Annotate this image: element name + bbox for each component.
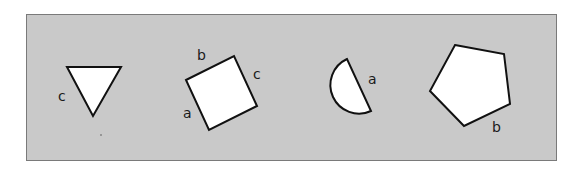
square-label-a: a: [183, 105, 192, 121]
square-label-b: b: [197, 47, 206, 63]
semicircle-label-a: a: [368, 71, 377, 87]
pentagon-label-b: b: [492, 119, 501, 135]
square-label-c: c: [253, 66, 261, 82]
shapes-figure: c b c a a b: [0, 0, 584, 170]
stray-dot: [100, 134, 102, 136]
triangle-label-c: c: [58, 88, 66, 104]
